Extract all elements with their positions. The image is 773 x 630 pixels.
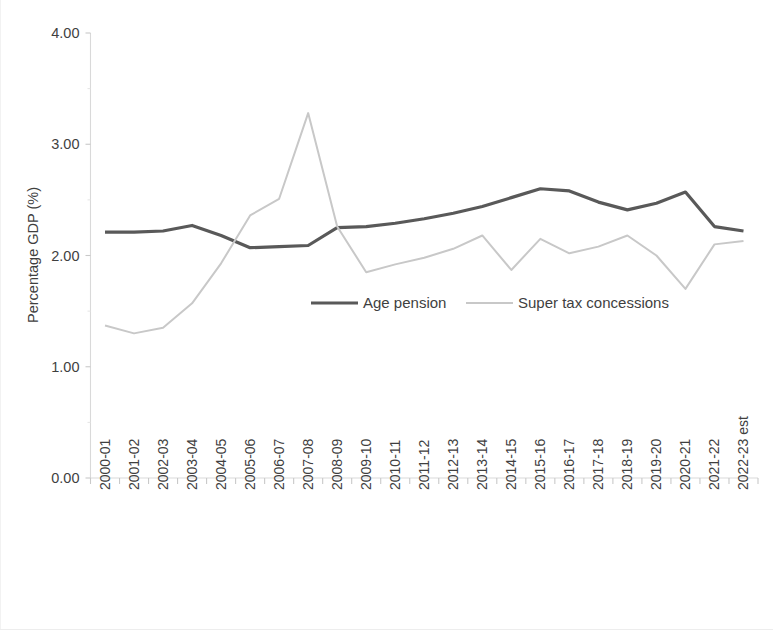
y-axis-title-text: Percentage GDP (%)	[25, 187, 41, 323]
x-tick-label: 2021-22	[706, 438, 722, 490]
y-axis-title: Percentage GDP (%)	[25, 187, 41, 323]
x-tick-label: 2015-16	[532, 438, 548, 490]
x-tick-label: 2016-17	[561, 438, 577, 490]
x-tick-label: 2008-09	[329, 438, 345, 490]
y-axis-tick-labels: 0.001.002.003.004.00	[51, 25, 79, 486]
left-border-rule	[0, 0, 1, 630]
x-tick-label: 2004-05	[213, 438, 229, 490]
x-tick-label: 2014-15	[503, 438, 519, 490]
x-tick-label: 2000-01	[97, 438, 113, 490]
x-axis-tick-labels: 2000-012001-022002-032003-042004-052005-…	[97, 416, 751, 490]
x-tick-label: 2013-14	[474, 438, 490, 490]
x-tick-label: 2003-04	[184, 438, 200, 490]
x-tick-label: 2002-03	[155, 438, 171, 490]
x-tick-label: 2022-23 est	[735, 416, 751, 490]
chart-figure: Percentage GDP (%) 0.001.002.003.004.00 …	[0, 0, 773, 630]
chart-legend: Age pensionSuper tax concessions	[311, 294, 669, 311]
x-tick-label: 2001-02	[126, 438, 142, 490]
x-tick-label: 2018-19	[619, 438, 635, 490]
x-tick-label: 2010-11	[387, 439, 403, 490]
legend-label-1: Age pension	[363, 294, 446, 311]
x-tick-label: 2019-20	[648, 438, 664, 490]
x-tick-label: 2020-21	[677, 438, 693, 490]
legend-label-2: Super tax concessions	[518, 294, 669, 311]
x-tick-label: 2012-13	[445, 438, 461, 490]
y-tick-label: 3.00	[51, 136, 79, 152]
x-tick-label: 2007-08	[300, 438, 316, 490]
y-tick-label: 2.00	[51, 248, 79, 264]
y-tick-label: 4.00	[51, 25, 79, 41]
x-tick-label: 2011-12	[416, 439, 432, 490]
x-tick-label: 2009-10	[358, 438, 374, 490]
series-line-1	[105, 189, 743, 248]
x-tick-label: 2017-18	[590, 438, 606, 490]
y-tick-label: 1.00	[51, 359, 79, 375]
x-tick-label: 2006-07	[271, 438, 287, 490]
y-axis-ticks	[86, 33, 91, 478]
x-tick-label: 2005-06	[242, 438, 258, 490]
y-tick-label: 0.00	[51, 470, 79, 486]
line-chart: Percentage GDP (%) 0.001.002.003.004.00 …	[0, 0, 773, 630]
